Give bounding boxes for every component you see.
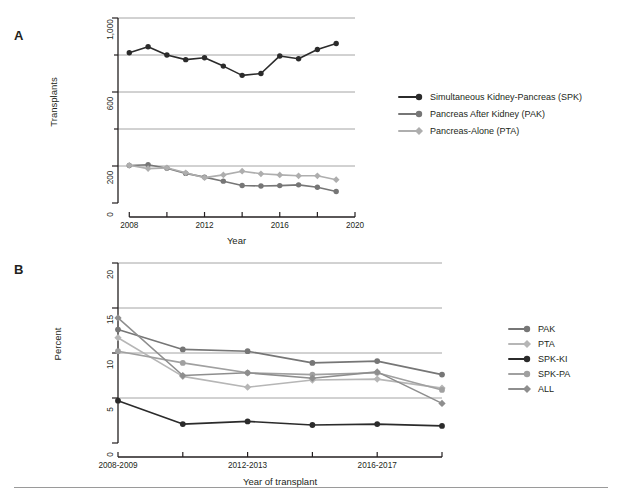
legend-item-spk-ki[interactable]: SPK-KI xyxy=(508,352,570,365)
legend-marker-icon xyxy=(508,383,532,395)
footer-rule xyxy=(14,487,608,488)
legend-marker-icon xyxy=(508,338,532,350)
x-tick-label: 2008-2009 xyxy=(90,461,146,470)
legend-marker-icon xyxy=(508,353,532,365)
series-pta xyxy=(114,334,445,392)
series-spk-ki xyxy=(115,398,445,429)
panel-b-x-axis-title: Year of transplant xyxy=(210,476,350,487)
series-all xyxy=(114,314,445,407)
y-tick-label: 20 xyxy=(106,262,115,288)
panel-b-y-axis-title: Percent xyxy=(52,309,63,379)
legend-marker-icon xyxy=(508,323,532,335)
figure-root: A Transplants Year Simultaneous Kidney-P… xyxy=(0,0,622,500)
legend-label: PTA xyxy=(538,338,555,350)
series-pak xyxy=(115,327,445,378)
panel-b-legend: PAKPTASPK-KISPK-PAALL xyxy=(508,322,570,397)
x-axis xyxy=(118,452,442,457)
x-tick-label: 2016-2017 xyxy=(349,461,405,470)
panel-b-svg xyxy=(0,0,622,500)
legend-item-spk-pa[interactable]: SPK-PA xyxy=(508,367,570,380)
panel-b-plot xyxy=(0,0,622,500)
legend-item-pak[interactable]: PAK xyxy=(508,322,570,335)
series-spk-pa xyxy=(115,348,445,392)
y-tick-label: 15 xyxy=(106,307,115,333)
legend-item-all[interactable]: ALL xyxy=(508,382,570,395)
y-tick-label: 10 xyxy=(106,352,115,378)
legend-label: ALL xyxy=(538,383,554,395)
legend-item-pta[interactable]: PTA xyxy=(508,337,570,350)
y-tick-label: 5 xyxy=(106,397,115,423)
x-tick-label: 2012-2013 xyxy=(220,461,276,470)
legend-label: SPK-PA xyxy=(538,368,570,380)
legend-label: SPK-KI xyxy=(538,353,568,365)
legend-label: PAK xyxy=(538,323,555,335)
legend-marker-icon xyxy=(508,368,532,380)
